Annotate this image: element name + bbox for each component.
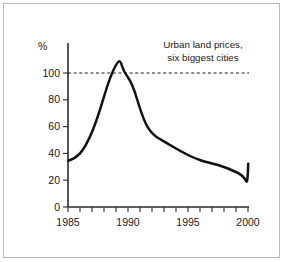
y-tick-label-0: 0 — [54, 201, 60, 213]
x-tick-label-2000: 2000 — [236, 216, 260, 228]
y-tick-label-20: 20 — [48, 174, 60, 186]
x-tick-label-1985: 1985 — [56, 216, 80, 228]
x-tick-label-1995: 1995 — [176, 216, 200, 228]
x-axis-tick-labels: 1985 1990 1995 2000 — [56, 216, 260, 228]
land-price-curve — [68, 61, 248, 181]
y-axis-tick-labels: 0 20 40 60 80 100 — [42, 67, 60, 213]
y-tick-label-80: 80 — [48, 93, 60, 105]
y-axis-unit-label: % — [38, 40, 47, 52]
y-tick-label-60: 60 — [48, 120, 60, 132]
y-tick-label-40: 40 — [48, 147, 60, 159]
x-tick-label-1990: 1990 — [116, 216, 140, 228]
chart-title-line-2: six biggest cities — [167, 52, 238, 63]
line-chart: 0 20 40 60 80 100 % 1985 1990 1995 2000 … — [0, 0, 284, 262]
chart-title-line-1: Urban land prices, — [163, 39, 243, 50]
chart-figure: 0 20 40 60 80 100 % 1985 1990 1995 2000 … — [0, 0, 284, 262]
chart-title-block: Urban land prices, six biggest cities — [163, 39, 243, 63]
y-tick-label-100: 100 — [42, 67, 60, 79]
